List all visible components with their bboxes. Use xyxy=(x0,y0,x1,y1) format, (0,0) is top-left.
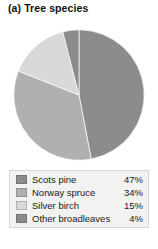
legend-item-scots-pine: Scots pine 47% xyxy=(10,173,148,186)
legend-swatch-icon-norway-spruce xyxy=(16,188,27,197)
pie-chart xyxy=(13,29,145,161)
legend-label-scots-pine: Scots pine xyxy=(32,173,124,186)
figure-panel-a: (a) Tree species Scots pine 47% Norway s… xyxy=(0,0,158,249)
pie-chart-svg xyxy=(13,29,145,161)
pie-slice xyxy=(79,30,144,159)
legend-value-silver-birch: 15% xyxy=(124,199,143,212)
legend-label-silver-birch: Silver birch xyxy=(32,199,124,212)
legend-swatch-icon-silver-birch xyxy=(16,201,27,210)
legend-item-other-broadleaves: Other broadleaves 4% xyxy=(10,212,148,225)
page-title: (a) Tree species xyxy=(8,2,88,14)
pie-slice-group xyxy=(14,30,144,160)
legend-label-other-broadleaves: Other broadleaves xyxy=(32,212,129,225)
legend-item-norway-spruce: Norway spruce 34% xyxy=(10,186,148,199)
legend-swatch-icon-scots-pine xyxy=(16,175,27,184)
chart-legend: Scots pine 47% Norway spruce 34% Silver … xyxy=(9,170,149,228)
legend-value-scots-pine: 47% xyxy=(124,173,143,186)
legend-item-silver-birch: Silver birch 15% xyxy=(10,199,148,212)
legend-swatch-icon-other-broadleaves xyxy=(16,214,27,223)
legend-value-other-broadleaves: 4% xyxy=(129,212,143,225)
legend-value-norway-spruce: 34% xyxy=(124,186,143,199)
legend-label-norway-spruce: Norway spruce xyxy=(32,186,124,199)
